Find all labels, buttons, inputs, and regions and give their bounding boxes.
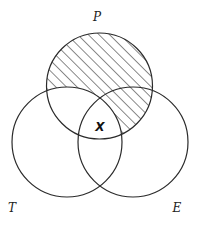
set-t-label: T <box>8 201 17 215</box>
venn-diagram: P T E X <box>0 0 197 226</box>
set-p-label: P <box>92 10 102 24</box>
set-e-label: E <box>172 201 182 215</box>
region-x-label: X <box>94 120 105 134</box>
